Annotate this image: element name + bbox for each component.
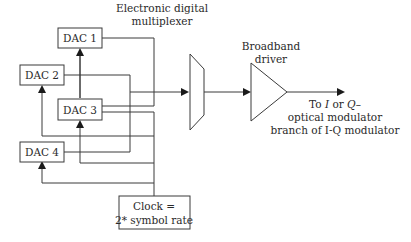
wire-clock-dac3 [80, 127, 154, 163]
dac4-label: DAC 4 [25, 146, 59, 158]
arrow-into-mux [181, 88, 189, 96]
arrow-into-dac2 [38, 85, 46, 93]
dac3-label: DAC 3 [63, 104, 97, 116]
mux-shape [190, 54, 204, 130]
clock-label-line1: Clock = [133, 200, 175, 212]
dac4-block: DAC 4 [20, 142, 64, 162]
driver-shape [251, 63, 287, 121]
output-label-line2: optical modulator [288, 111, 383, 123]
driver-label-line1: Broadband [242, 40, 301, 52]
clock-label-line2: 2* symbol rate [115, 214, 193, 226]
output-label-line1: To I or Q– [309, 98, 361, 111]
arrow-into-dac3 [76, 120, 84, 128]
driver-label-line2: driver [255, 53, 288, 65]
arrow-into-driver [243, 88, 251, 96]
block-diagram: DAC 1 DAC 2 DAC 3 DAC 4 Clock = 2* symbo… [0, 0, 411, 242]
dac2-label: DAC 2 [25, 69, 59, 81]
arrow-output [337, 88, 345, 96]
driver-block: Broadband driver [242, 40, 301, 121]
arrow-into-dac1 [76, 48, 84, 56]
output-label-line3: branch of I-Q modulator [271, 124, 401, 136]
dac2-block: DAC 2 [20, 65, 64, 85]
dac3-block: DAC 3 [58, 99, 102, 120]
dac1-block: DAC 1 [58, 28, 102, 48]
wire-dac1-out [102, 38, 154, 106]
mux-label-line1: Electronic digital [116, 2, 209, 14]
output-label: To I or Q– optical modulator branch of I… [271, 98, 401, 136]
dac1-label: DAC 1 [63, 32, 97, 44]
clock-block: Clock = 2* symbol rate [115, 196, 193, 229]
mux-label-line2: multiplexer [131, 15, 193, 27]
wire-clock-dac4 [42, 168, 154, 183]
